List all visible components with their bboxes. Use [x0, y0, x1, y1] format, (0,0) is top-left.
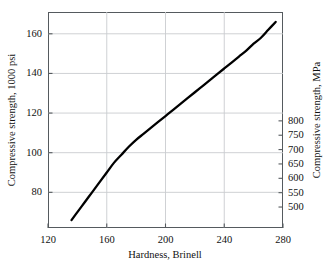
- x-axis-tick-label: 160: [99, 235, 115, 246]
- y-axis-left-title: Compressive strength, 1000 psi: [7, 20, 18, 220]
- y-axis-left-tick-label: 160: [14, 29, 42, 40]
- y-axis-left-tick-label: 80: [14, 187, 42, 198]
- y-axis-left-tick-label: 140: [14, 68, 42, 79]
- y-axis-right-tick-label: 500: [288, 202, 314, 213]
- data-curve: [72, 22, 276, 220]
- x-axis-tick-label: 240: [216, 235, 232, 246]
- x-axis-tick-label: 120: [40, 235, 56, 246]
- x-axis-tick-label: 200: [158, 235, 174, 246]
- y-axis-right-tick-label: 550: [288, 187, 314, 198]
- x-axis-tick-label: 280: [275, 235, 291, 246]
- y-axis-right-title: Compressive strength, MPa: [312, 20, 323, 220]
- chart-figure: 8010012014016050055060065070075080012016…: [0, 0, 331, 275]
- y-axis-left-tick-label: 100: [14, 147, 42, 158]
- y-axis-left-tick-label: 120: [14, 108, 42, 119]
- x-axis-title: Hardness, Brinell: [128, 250, 202, 261]
